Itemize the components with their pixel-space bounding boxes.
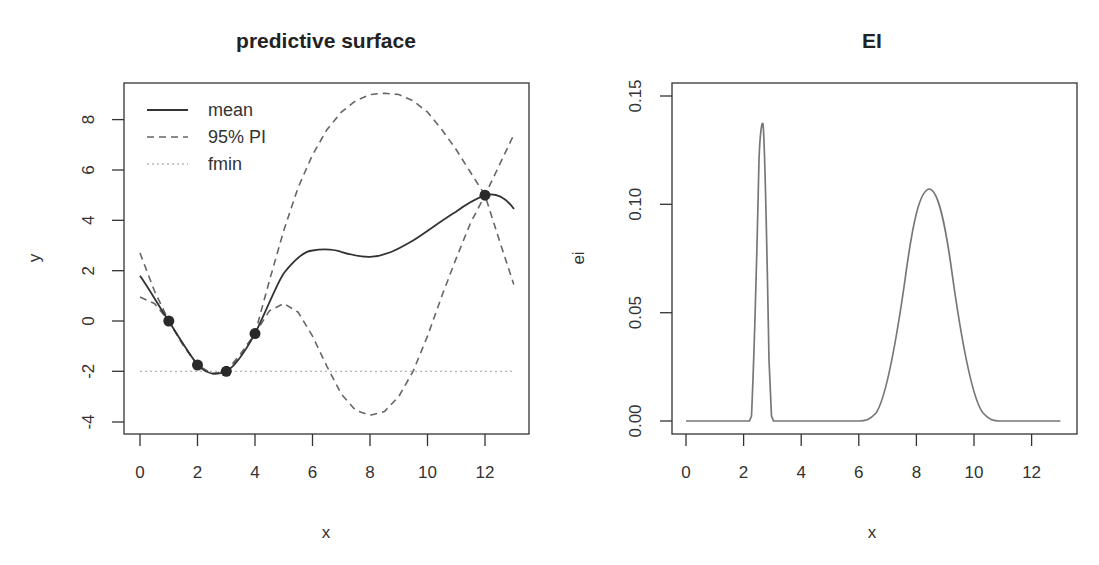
x-tick-label: 10: [965, 463, 984, 482]
ei-line: [686, 123, 1060, 421]
mean-line: [140, 194, 514, 373]
data-point: [192, 360, 203, 371]
figure: predictive surface 0 2 4 6 8 10 12 x: [0, 0, 1099, 565]
x-tick-label: 2: [193, 463, 202, 482]
x-tick-label: 8: [912, 463, 921, 482]
left-title: predictive surface: [236, 29, 416, 52]
x-tick-label: 6: [308, 463, 317, 482]
y-tick-label: 2: [79, 266, 98, 275]
x-tick-label: 12: [476, 463, 495, 482]
y-tick-label: -4: [79, 414, 98, 429]
y-tick-label: 0.10: [626, 188, 645, 221]
pi-lower-line: [140, 135, 514, 416]
y-tick-label: 6: [79, 165, 98, 174]
legend: mean 95% PI fmin: [147, 100, 266, 174]
x-tick-label: 2: [739, 463, 748, 482]
x-tick-label: 4: [796, 463, 805, 482]
right-y-axis: 0.00 0.05 0.10 0.15: [626, 79, 672, 437]
y-tick-label: 0.15: [626, 79, 645, 112]
right-x-axis: 0 2 4 6 8 10 12: [681, 434, 1041, 482]
predictive-surface-panel: predictive surface 0 2 4 6 8 10 12 x: [25, 29, 529, 542]
x-tick-label: 12: [1022, 463, 1041, 482]
right-plot-frame: [672, 83, 1077, 434]
left-y-axis: -4 -2 0 2 4 6 8: [79, 115, 124, 430]
legend-fmin-label: fmin: [208, 154, 242, 174]
observation-points: [163, 190, 490, 377]
right-x-label: x: [868, 523, 877, 542]
right-title: EI: [862, 29, 882, 52]
left-x-axis: 0 2 4 6 8 10 12: [135, 434, 494, 482]
y-tick-label: 0.00: [626, 404, 645, 437]
y-tick-label: -2: [79, 364, 98, 379]
left-plot-frame: [124, 83, 529, 434]
legend-mean-label: mean: [208, 100, 253, 120]
pi-upper-line: [140, 93, 514, 374]
data-point: [480, 190, 491, 201]
y-tick-label: 8: [79, 115, 98, 124]
x-tick-label: 10: [418, 463, 437, 482]
data-point: [221, 366, 232, 377]
legend-pi-label: 95% PI: [208, 127, 266, 147]
x-tick-label: 4: [250, 463, 259, 482]
x-tick-label: 8: [365, 463, 374, 482]
x-tick-label: 0: [135, 463, 144, 482]
x-tick-label: 0: [681, 463, 690, 482]
left-x-label: x: [322, 523, 331, 542]
y-tick-label: 0: [79, 316, 98, 325]
x-tick-label: 6: [854, 463, 863, 482]
y-tick-label: 4: [79, 216, 98, 225]
ei-panel: EI 0 2 4 6 8 10 12 x 0.00 0.05: [569, 29, 1077, 542]
y-tick-label: 0.05: [626, 296, 645, 329]
data-point: [163, 316, 174, 327]
right-y-label: ei: [569, 251, 588, 264]
data-point: [250, 328, 261, 339]
left-y-label: y: [25, 253, 44, 262]
